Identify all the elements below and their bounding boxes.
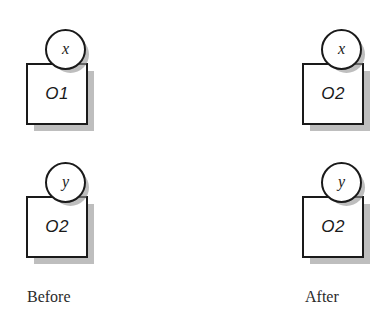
- object-box-after-x: O2: [302, 63, 364, 125]
- object-box-before-y: O2: [26, 196, 88, 258]
- object-box-before-x: O1: [26, 63, 88, 125]
- variable-label: y: [323, 174, 360, 190]
- object-label: O1: [28, 85, 86, 102]
- variable-label: x: [323, 41, 360, 57]
- variable-circle-y-after: y: [321, 162, 362, 203]
- caption-before: Before: [27, 288, 71, 306]
- caption-after: After: [305, 288, 339, 306]
- object-box-after-y: O2: [302, 196, 364, 258]
- variable-circle-x-after: x: [321, 29, 362, 70]
- variable-label: x: [47, 41, 84, 57]
- object-reference-diagram: O1 x O2 y Before O2 x O2 y After: [0, 0, 379, 325]
- variable-circle-x-before: x: [45, 29, 86, 70]
- variable-circle-y-before: y: [45, 162, 86, 203]
- object-label: O2: [28, 218, 86, 235]
- object-label: O2: [304, 218, 362, 235]
- object-label: O2: [304, 85, 362, 102]
- variable-label: y: [47, 174, 84, 190]
